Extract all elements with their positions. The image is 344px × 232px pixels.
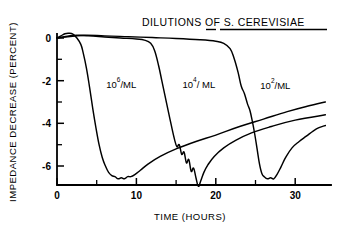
y-tick-label-neg2: -2 [42,76,51,87]
y-tick-label-neg6: -6 [42,161,51,172]
x-tick-label-10: 10 [131,190,143,201]
axis-frame [57,34,331,185]
x-tick-label-30: 30 [290,190,302,201]
curve-dilution-10e2 [57,35,325,179]
series-label-10e2-suffix: /ML [275,80,291,91]
series-label-10e4: 104/ ML [183,75,216,90]
x-axis-ticks [57,178,295,185]
y-axis-ticks [57,38,64,166]
chart-title-group: DILUTIONS OF S. CEREVISIAE [142,16,327,30]
series-label-10e2: 102/ML [260,76,290,91]
series-label-10e4-base: 10 [183,79,194,90]
curve-dilution-10e4 [57,35,325,186]
x-tick-label-0: 0 [54,190,60,201]
chart-title-prefix: DILUTIONS OF [142,16,224,28]
y-tick-label-neg4: -4 [42,118,51,129]
y-axis-tick-labels: 0 -2 -4 -6 [42,33,51,172]
series-annotations-group: 106/ML 104/ ML 102/ML [106,75,290,91]
x-axis-title: TIME (HOURS) [154,211,226,222]
chart-title-species: CEREVISIAE [238,16,305,28]
impedance-decrease-line-chart: DILUTIONS OF S. CEREVISIAE 0 -2 -4 -6 [0,0,344,232]
x-axis-tick-labels: 0 10 20 30 [54,190,301,201]
series-label-10e6: 106/ML [106,75,136,90]
y-axis-title: IMPEDANCE DECREASE (PERCENT) [7,22,18,202]
chart-title: DILUTIONS OF S. CEREVISIAE [142,16,305,28]
y-tick-label-0: 0 [45,33,51,44]
axes-group: 0 -2 -4 -6 0 10 20 30 TIME (HOURS) [7,22,331,222]
data-curves-group [57,33,325,186]
x-tick-label-20: 20 [210,190,222,201]
series-label-10e6-suffix: /ML [120,79,136,90]
series-label-10e2-base: 10 [260,80,271,91]
series-label-10e4-suffix: / ML [197,79,215,90]
chart-title-genus: S. [224,16,235,28]
chart-figure: DILUTIONS OF S. CEREVISIAE 0 -2 -4 -6 [0,0,344,232]
series-label-10e6-base: 10 [106,79,117,90]
